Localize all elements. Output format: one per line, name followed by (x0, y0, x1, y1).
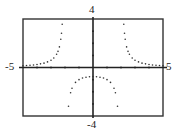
data-point (162, 65, 164, 67)
y-tick (92, 91, 94, 93)
data-point (60, 38, 62, 40)
data-point (115, 92, 117, 94)
data-point (103, 77, 105, 79)
x-tick (36, 67, 38, 69)
plot-area (0, 0, 175, 132)
data-point (75, 82, 77, 84)
data-point (22, 65, 24, 67)
data-point (92, 76, 94, 78)
data-point (85, 76, 87, 78)
x-tick (120, 67, 122, 69)
data-point (123, 23, 125, 25)
data-point (96, 76, 98, 78)
data-point (99, 76, 101, 78)
data-point (61, 23, 63, 25)
data-point (57, 51, 59, 53)
y-tick (92, 42, 94, 44)
data-point (138, 61, 140, 63)
data-point (78, 79, 80, 81)
data-point (113, 87, 115, 89)
x-tick (134, 67, 136, 69)
data-point (71, 87, 73, 89)
data-point (47, 61, 49, 63)
x-tick (106, 67, 108, 69)
data-point (59, 46, 61, 48)
data-point (40, 63, 42, 65)
x-tick (64, 67, 66, 69)
data-point (53, 57, 55, 59)
data-point (126, 46, 128, 48)
data-point (106, 79, 108, 81)
data-point (145, 63, 147, 65)
y-tick (92, 54, 94, 56)
x-tick (50, 67, 52, 69)
y-tick (92, 79, 94, 81)
data-point (50, 59, 52, 61)
data-point (110, 82, 112, 84)
data-point (26, 65, 28, 67)
data-point (68, 106, 70, 108)
data-point (152, 64, 154, 66)
data-point (134, 59, 136, 61)
data-point (124, 38, 126, 40)
data-point (89, 76, 91, 78)
data-point (124, 33, 126, 35)
data-point (43, 62, 45, 64)
data-point (117, 106, 119, 108)
data-point (131, 57, 133, 59)
x-tick (148, 67, 150, 69)
data-point (129, 53, 131, 55)
data-point (148, 64, 150, 66)
data-point (61, 33, 63, 35)
data-point (56, 53, 58, 55)
data-point (70, 92, 72, 94)
data-point (127, 51, 129, 53)
data-point (29, 64, 31, 66)
data-point (141, 62, 143, 64)
x-tick (78, 67, 80, 69)
data-point (36, 64, 38, 66)
data-point (33, 64, 35, 66)
y-tick (92, 30, 94, 32)
data-point (82, 77, 84, 79)
y-tick (92, 103, 94, 105)
data-point (155, 64, 157, 66)
data-point (159, 65, 161, 67)
